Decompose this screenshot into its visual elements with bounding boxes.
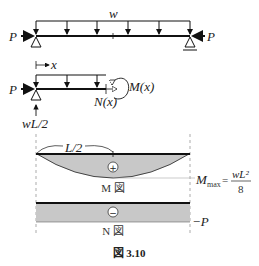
- svg-text:+: +: [109, 163, 117, 173]
- fbd-left-force-label: P: [8, 82, 17, 97]
- pin-support-icon: [31, 37, 41, 47]
- axial-diagram: − −P N 図: [36, 203, 209, 237]
- beam-diagram: w P P: [8, 6, 215, 50]
- svg-text:−: −: [109, 208, 117, 218]
- distributed-load: [36, 21, 190, 34]
- roller-support-icon: [185, 37, 195, 47]
- load-label: w: [109, 6, 118, 21]
- svg-text:wL²: wL²: [232, 168, 249, 180]
- free-body-diagram: x P M(x) N(x) wL/2: [8, 57, 154, 131]
- pin-support-icon: [31, 90, 41, 100]
- max-moment-label: M max = wL² 8: [195, 168, 251, 195]
- axial-diagram-name: N 図: [102, 225, 124, 237]
- moment-label: M(x): [128, 79, 154, 94]
- axial-value-label: −P: [192, 214, 209, 229]
- svg-text:8: 8: [238, 183, 244, 195]
- left-force-label: P: [8, 29, 17, 44]
- half-span-label: L/2: [64, 140, 83, 155]
- figure-caption: 図 3.10: [113, 246, 147, 259]
- reaction-label: wL/2: [22, 116, 49, 131]
- axial-label: N(x): [93, 94, 117, 109]
- x-label: x: [50, 57, 57, 72]
- moment-diagram: L/2 + M 図 M max = wL² 8: [36, 140, 251, 195]
- svg-text:max: max: [207, 180, 221, 189]
- svg-text:=: =: [222, 174, 228, 186]
- moment-diagram-name: M 図: [101, 182, 125, 194]
- right-force-label: P: [206, 29, 215, 44]
